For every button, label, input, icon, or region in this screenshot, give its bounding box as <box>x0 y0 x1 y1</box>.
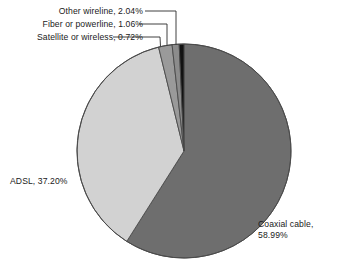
callout-label-fiber-or-powerline: Fiber or powerline, 1.06% <box>8 19 143 30</box>
callout-label-other-wireline: Other wireline, 2.04% <box>8 6 143 17</box>
slice-label-coaxial-cable-line2: 58.99% <box>258 230 288 240</box>
callout-label-satellite-or-wireless: Satellite or wireless, 0.72% <box>8 32 143 43</box>
pie-chart: Other wireline, 2.04% Fiber or powerline… <box>0 0 338 263</box>
leader-line-fiber-or-powerline <box>139 24 167 46</box>
slice-label-coaxial-cable-line1: Coaxial cable, <box>258 219 313 229</box>
slice-label-adsl: ADSL, 37.20% <box>10 176 68 187</box>
slice-label-coaxial-cable: Coaxial cable, 58.99% <box>258 219 334 241</box>
